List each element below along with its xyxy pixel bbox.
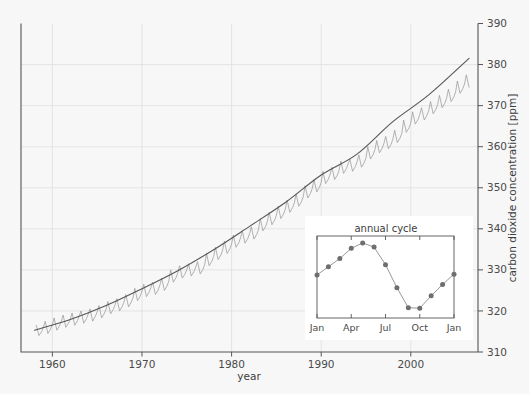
y-tick-label: 320 xyxy=(487,305,507,317)
y-tick-label: 370 xyxy=(487,99,507,111)
y-tick-label: 330 xyxy=(487,263,507,275)
y-tick-label: 340 xyxy=(487,222,507,234)
y-tick-label: 380 xyxy=(487,58,507,70)
inset-data-point xyxy=(349,246,354,251)
inset-data-point xyxy=(429,293,434,298)
x-tick-label: 1980 xyxy=(218,358,245,370)
x-tick-label: 1970 xyxy=(129,358,156,370)
inset-tick-label: Apr xyxy=(343,322,360,333)
inset-tick-label: Jul xyxy=(379,322,391,333)
inset-data-point xyxy=(406,305,411,310)
keeling-curve-chart: 19601970198019902000 3103203303403503603… xyxy=(0,0,529,394)
y-tick-label: 350 xyxy=(487,181,507,193)
y-tick-label: 310 xyxy=(487,346,507,358)
annual-cycle-inset: annual cycle JanAprJulOctJan xyxy=(305,216,473,340)
inset-tick-label: Jan xyxy=(309,322,325,333)
chart-page: 19601970198019902000 3103203303403503603… xyxy=(0,0,529,394)
inset-data-point xyxy=(440,282,445,287)
inset-data-point xyxy=(326,264,331,269)
x-tick-label: 2000 xyxy=(397,358,424,370)
inset-data-point xyxy=(315,272,320,277)
x-tick-label: 1960 xyxy=(39,358,66,370)
x-axis-title: year xyxy=(237,370,261,382)
inset-data-point xyxy=(417,306,422,311)
inset-data-point xyxy=(383,262,388,267)
inset-data-point xyxy=(452,272,457,277)
inset-data-point xyxy=(394,285,399,290)
x-tick-label: 1990 xyxy=(308,358,335,370)
y-tick-label: 390 xyxy=(487,17,507,29)
inset-tick-label: Oct xyxy=(412,322,429,333)
y-tick-label: 360 xyxy=(487,140,507,152)
inset-title: annual cycle xyxy=(354,223,417,234)
inset-data-point xyxy=(337,256,342,261)
inset-data-point xyxy=(360,240,365,245)
inset-data-point xyxy=(372,245,377,250)
inset-tick-label: Jan xyxy=(446,322,462,333)
y-axis-title: carbon dioxide concentration [ppm] xyxy=(506,94,518,283)
